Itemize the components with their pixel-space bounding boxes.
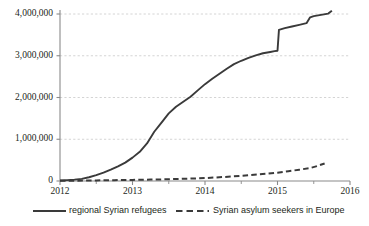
- y-tick-label: 0: [48, 175, 53, 185]
- line-chart: 01,000,0002,000,0003,000,0004,000,000 20…: [0, 0, 369, 226]
- y-tick-label: 4,000,000: [15, 8, 53, 18]
- series-line-0: [60, 11, 332, 181]
- x-tick-label: 2015: [268, 186, 287, 196]
- x-tick-label: 2012: [51, 186, 70, 196]
- gridlines-group: [60, 14, 350, 139]
- x-tick-label: 2014: [196, 186, 215, 196]
- x-tick-label: 2013: [123, 186, 142, 196]
- chart-container: 01,000,0002,000,0003,000,0004,000,000 20…: [0, 0, 369, 226]
- y-tick-label: 1,000,000: [15, 133, 53, 143]
- y-tick-labels-group: 01,000,0002,000,0003,000,0004,000,000: [15, 8, 53, 185]
- y-tick-label: 2,000,000: [15, 92, 53, 102]
- legend-label-1: Syrian asylum seekers in Europe: [213, 205, 345, 215]
- y-tick-label: 3,000,000: [15, 50, 53, 60]
- series-group: [60, 11, 332, 181]
- x-tick-label: 2016: [341, 186, 360, 196]
- x-tick-labels-group: 20122013201420152016: [51, 186, 360, 196]
- legend-label-0: regional Syrian refugees: [69, 205, 167, 215]
- legend-group: regional Syrian refugeesSyrian asylum se…: [33, 205, 345, 215]
- series-line-1: [60, 163, 325, 180]
